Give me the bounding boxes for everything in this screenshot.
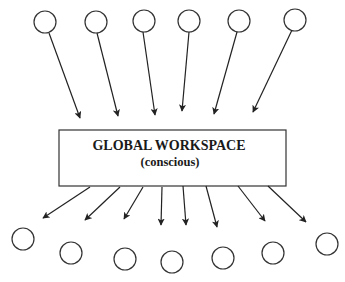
output-arrow-4 [161,187,162,225]
output-arrow-1 [43,187,90,218]
workspace-subtitle: (conscious) [140,155,199,169]
input-arrow-3 [143,32,155,115]
workspace-title: GLOBAL WORKSPACE [92,138,245,153]
input-processors [34,9,306,33]
output-node-circle-1 [12,228,34,250]
input-arrow-1 [49,33,80,118]
output-arrow-7 [238,186,265,221]
input-node-circle-2 [85,11,107,33]
input-node-circle-3 [133,10,155,32]
output-node-circle-6 [262,242,284,264]
output-node-circle-3 [114,248,136,270]
input-arrows [49,30,292,118]
input-arrow-2 [97,33,118,116]
output-node-circle-7 [316,233,338,255]
output-arrow-5 [183,186,186,225]
output-arrow-6 [206,186,217,227]
output-node-circle-2 [60,242,82,264]
output-arrow-2 [85,187,120,220]
output-arrow-3 [124,187,143,219]
input-arrow-4 [182,32,189,111]
input-node-circle-5 [228,10,250,32]
output-arrows [43,186,306,227]
input-arrow-5 [214,32,237,114]
input-node-circle-6 [284,9,306,31]
global-workspace-diagram: GLOBAL WORKSPACE (conscious) [0,0,345,282]
output-arrow-8 [268,186,306,222]
output-node-circle-4 [161,251,183,273]
input-node-circle-1 [34,11,56,33]
output-node-circle-5 [212,247,234,269]
input-node-circle-4 [178,10,200,32]
input-arrow-6 [253,30,292,112]
output-processors [12,228,338,273]
